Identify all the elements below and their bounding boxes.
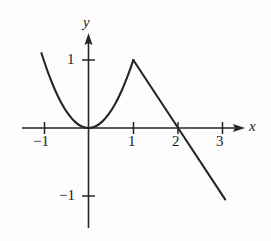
y-tick-label-one: 1 bbox=[67, 52, 75, 67]
descending-line-curve bbox=[133, 60, 225, 199]
y-tick-label-minus-one: −1 bbox=[59, 188, 75, 203]
parabola-curve bbox=[41, 53, 133, 128]
coordinate-plot bbox=[0, 0, 271, 241]
x-tick-label-minus-one: −1 bbox=[33, 134, 49, 149]
x-tick-label-two: 2 bbox=[172, 134, 180, 149]
x-tick-label-three: 3 bbox=[216, 134, 224, 149]
x-tick-label-one: 1 bbox=[128, 134, 136, 149]
y-axis-label: y bbox=[83, 15, 90, 30]
graph-figure: x y −1 1 2 3 1 −1 bbox=[0, 0, 271, 241]
x-axis-label: x bbox=[249, 119, 256, 134]
